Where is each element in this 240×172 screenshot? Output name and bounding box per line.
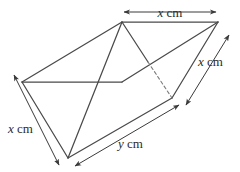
edge-hidden-back-vertical (148, 62, 172, 98)
prism-figure: x cm x cm x cm y cm (0, 0, 240, 172)
edge-back-top-to-hidden (122, 22, 148, 62)
dimension-label-left-unit: cm (17, 121, 33, 136)
edge-upper-fold-diagonal (122, 22, 218, 82)
dimension-line-right (186, 35, 229, 105)
dimension-label-right: x cm (197, 54, 223, 69)
dimension-label-bottom-unit: cm (127, 136, 143, 151)
edge-front-left-to-front-bottom (22, 82, 68, 158)
dimension-label-right-unit: cm (207, 54, 223, 69)
dimension-label-top: x cm (157, 5, 183, 20)
prism-hidden-edges (148, 62, 172, 98)
edge-front-top-to-front-bottom (68, 22, 122, 158)
dimension-label-left: x cm (7, 121, 33, 136)
dimension-line-left (14, 75, 59, 165)
dimension-label-top-unit: cm (167, 5, 183, 20)
prism-diagram: x cm x cm x cm y cm (0, 0, 240, 172)
dimension-label-bottom: y cm (116, 136, 143, 151)
edge-front-left-to-front-top (22, 22, 122, 82)
